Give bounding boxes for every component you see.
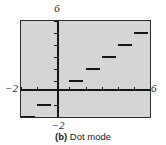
step-segment xyxy=(118,44,132,46)
x-axis-tick xyxy=(102,87,103,91)
y-axis-tick xyxy=(54,69,58,70)
step-segment xyxy=(134,32,148,34)
step-segment xyxy=(102,56,116,58)
x-axis-tick xyxy=(69,87,70,91)
step-segment xyxy=(69,80,83,82)
axis-label-left: −2 xyxy=(1,83,18,94)
step-segment xyxy=(37,104,51,106)
figure-caption-tag: (b) xyxy=(55,131,67,142)
y-axis-tick xyxy=(54,33,58,34)
x-axis-tick xyxy=(21,87,22,91)
figure-caption: (b) Dot mode xyxy=(0,131,166,142)
step-segment xyxy=(86,68,100,70)
x-axis-tick xyxy=(86,87,87,91)
figure-dot-mode: 6 −2 6 −2 (b) Dot mode xyxy=(0,0,166,145)
axis-label-bottom: −2 xyxy=(48,120,68,131)
y-axis-tick xyxy=(54,117,58,118)
x-axis-tick xyxy=(118,87,119,91)
x-axis-tick xyxy=(37,87,38,91)
step-segment xyxy=(21,116,35,118)
axis-label-top: 6 xyxy=(49,3,65,14)
y-axis-tick xyxy=(54,105,58,106)
y-axis-tick xyxy=(54,81,58,82)
y-axis-tick xyxy=(54,45,58,46)
x-axis-tick xyxy=(150,87,151,91)
axis-label-right: 6 xyxy=(151,83,165,94)
calculator-screen xyxy=(20,20,151,118)
figure-caption-text: Dot mode xyxy=(70,131,111,142)
y-axis-tick xyxy=(54,57,58,58)
x-axis-tick xyxy=(134,87,135,91)
plot-area xyxy=(21,21,150,117)
y-axis-tick xyxy=(54,21,58,22)
